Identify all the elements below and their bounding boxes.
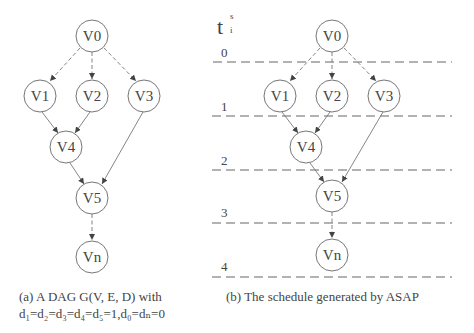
caption-a-line1: (a) A DAG G(V, E, D) with [19,288,165,305]
svg-text:V1: V1 [31,88,49,104]
node-v2: V2 [316,80,348,112]
level-label-1: 1 [221,99,228,114]
svg-text:V1: V1 [271,88,289,104]
edge-v1-v4 [42,112,58,133]
node-v5: V5 [316,180,348,212]
level-label-3: 3 [221,205,228,220]
caption-a-line2: d₁=d₂=d₃=d₄=d₅=1,d₀=dₙ=0 [19,305,165,322]
level-label-2: 2 [221,153,228,168]
edge-v4-v5 [310,163,324,182]
svg-text:V2: V2 [323,88,341,104]
edge-v0-v3 [344,48,376,81]
diagram-canvas: V0 V1 V2 V3 V4 V5 Vn t s i 0 1 2 3 4 V0 … [0,0,474,333]
edge-v2-v4 [75,112,90,133]
node-v4: V4 [50,131,82,163]
node-v0: V0 [76,20,108,52]
dag-graph: V0 V1 V2 V3 V4 V5 Vn [24,20,160,273]
caption-b: (b) The schedule generated by ASAP [226,288,419,305]
svg-text:V3: V3 [135,88,153,104]
caption-a: (a) A DAG G(V, E, D) with d₁=d₂=d₃=d₄=d₅… [19,288,165,322]
edge-v0-v1 [50,48,80,81]
svg-text:V2: V2 [83,88,101,104]
node-v4: V4 [290,131,322,163]
node-vn: Vn [316,239,348,271]
node-vn: Vn [76,241,108,273]
svg-text:V5: V5 [83,190,101,206]
time-axis-sub: i [230,25,233,35]
node-v3: V3 [368,80,400,112]
node-v5: V5 [76,182,108,214]
edge-v4-v5 [70,163,84,184]
svg-text:V4: V4 [297,139,316,155]
edge-v3-v5 [102,112,143,184]
time-axis-label: t [217,14,223,39]
node-v1: V1 [24,80,56,112]
edge-v0-v3 [104,48,136,81]
node-v3: V3 [128,80,160,112]
edge-v1-v4 [282,112,298,133]
svg-text:V3: V3 [375,88,393,104]
node-v1: V1 [264,80,296,112]
time-axis-sup: s [230,11,234,21]
svg-text:Vn: Vn [83,249,102,265]
svg-text:V5: V5 [323,188,341,204]
node-v0: V0 [316,20,348,52]
svg-text:V0: V0 [83,28,101,44]
svg-text:Vn: Vn [323,247,342,263]
edge-v2-v4 [315,112,330,133]
node-v2: V2 [76,80,108,112]
edge-v3-v5 [342,112,383,182]
svg-text:V0: V0 [323,28,341,44]
svg-text:V4: V4 [57,139,76,155]
asap-schedule: t s i 0 1 2 3 4 V0 V1 V2 V3 V4 V5 Vn [212,11,452,277]
level-label-4: 4 [221,259,228,274]
edge-v0-v1 [290,48,320,81]
level-label-0: 0 [221,45,228,60]
